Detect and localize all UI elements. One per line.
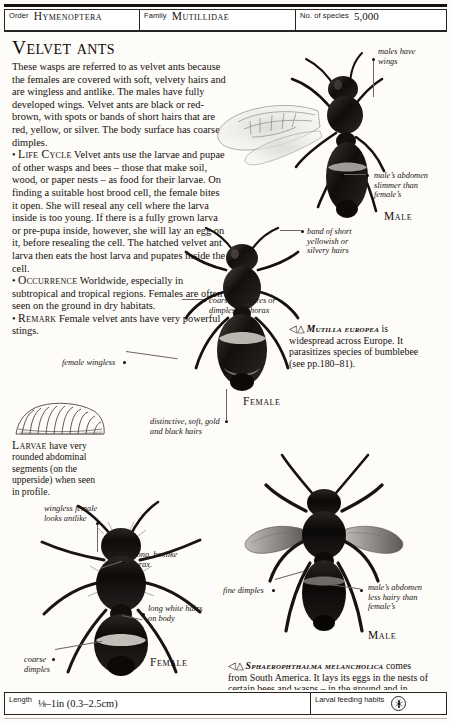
- annotation-wingless-female-antlike: wingless female looks antlike: [44, 504, 97, 523]
- annotation-dot-coarse-dimples: [52, 658, 55, 661]
- annotation-male-abdomen-slimmer: male’s abdomen slimmer than female’s: [374, 171, 428, 200]
- photo-mutilla-male: [200, 49, 390, 234]
- footer-cell-length: Length ⅛–1in (0.3–2.5cm): [5, 693, 310, 714]
- annotation-males-have-wings: males have wings: [378, 47, 415, 66]
- insect-in-circle-icon: [391, 696, 406, 711]
- species-caption-mutilla: ◁△ Mutilla europea is widespread across …: [289, 323, 429, 369]
- annotation-coarse-punctures: coarse punctures or dimples on thorax: [209, 296, 276, 315]
- page-content: Velvet ants These wasps are referred to …: [4, 31, 447, 690]
- annotation-female-wingless: female wingless: [62, 358, 115, 368]
- footer-cell-feeding-habits: Larval feeding habits: [310, 693, 446, 714]
- annotation-male-abdomen-less-hairy: male’s abdomen less hairy than female’s: [368, 583, 422, 612]
- field-guide-page: Order Hymenoptera Family Mutillidae No. …: [0, 0, 451, 723]
- sex-caption-male-bottom: Male: [368, 629, 396, 641]
- leader-line-male-abdomen-slimmer: [344, 174, 366, 175]
- taxonomy-header-bar: Order Hymenoptera Family Mutillidae No. …: [4, 9, 447, 32]
- species-count-value: 5,000: [354, 10, 379, 22]
- annotation-dot-long-white-hairs: [142, 613, 145, 616]
- leader-line-distinctive-hairs: [226, 389, 227, 421]
- length-label: Length: [9, 695, 32, 704]
- larva-caption-lead: Larvae: [12, 439, 47, 452]
- annotation-long-white-hairs: long white hairs on body: [148, 604, 202, 623]
- heading-remark: Remark: [18, 312, 56, 325]
- leader-line-coarse-punctures: [182, 299, 203, 300]
- page-title: Velvet ants: [12, 37, 115, 59]
- header-cell-family: Family Mutillidae: [139, 10, 295, 31]
- annotation-dot-male-abdomen-slimmer: [366, 174, 369, 177]
- annotation-dot-female-wingless: [123, 361, 126, 364]
- annotation-strong-boxlike-thorax: strong, boxlike thorax: [128, 550, 177, 569]
- heading-life-cycle: Life Cycle: [18, 148, 72, 161]
- family-value: Mutillidae: [172, 10, 229, 22]
- length-value: ⅛–1in (0.3–2.5cm): [38, 698, 118, 709]
- annotation-fine-dimples: fine dimples: [223, 586, 264, 596]
- heading-occurrence: Occurrence: [18, 274, 77, 287]
- top-rule: [4, 4, 447, 7]
- header-cell-species-count: No. of species 5,000: [295, 10, 446, 31]
- species-caption-sphaerophthalma: ◁△ Sphaerophthalma melancholica comes fr…: [228, 660, 428, 690]
- footer-bar: Length ⅛–1in (0.3–2.5cm) Larval feeding …: [4, 692, 447, 715]
- annotation-dot-coarse-punctures: [203, 299, 206, 302]
- leader-line-female-wingless: [126, 351, 178, 359]
- family-label: Family: [144, 11, 167, 20]
- leader-line-males-have-wings: [373, 61, 374, 97]
- larva-illustration: [12, 401, 108, 437]
- sex-caption-female-top: Female: [243, 395, 281, 407]
- leader-line-wingless-female-antlike: [97, 525, 98, 552]
- caption-marker-mutilla: ◁△: [289, 323, 304, 334]
- annotation-dot-fine-dimples: [272, 589, 275, 592]
- order-label: Order: [9, 11, 29, 20]
- species-name-mutilla: Mutilla europea: [306, 323, 379, 334]
- feeding-habits-label: Larval feeding habits: [315, 695, 384, 704]
- sex-caption-female-bottom: Female: [150, 656, 188, 668]
- sex-caption-male-top: Male: [384, 210, 412, 222]
- header-cell-order: Order Hymenoptera: [5, 10, 139, 31]
- annotation-band-of-short-hairs: band of short yellowish or silvery hairs: [307, 227, 352, 256]
- annotation-coarse-dimples: coarse dimples: [24, 655, 50, 674]
- caption-marker-sphaerophthalma: ◁△: [228, 660, 243, 671]
- bottom-rule: [4, 718, 447, 719]
- species-count-label: No. of species: [300, 11, 349, 20]
- annotation-distinctive-hairs: distinctive, soft, gold and black hairs: [150, 417, 220, 436]
- species-name-sphaerophthalma: Sphaerophthalma melancholica: [245, 660, 383, 671]
- order-value: Hymenoptera: [34, 10, 102, 22]
- paragraph-intro: These wasps are referred to as velvet an…: [12, 61, 226, 149]
